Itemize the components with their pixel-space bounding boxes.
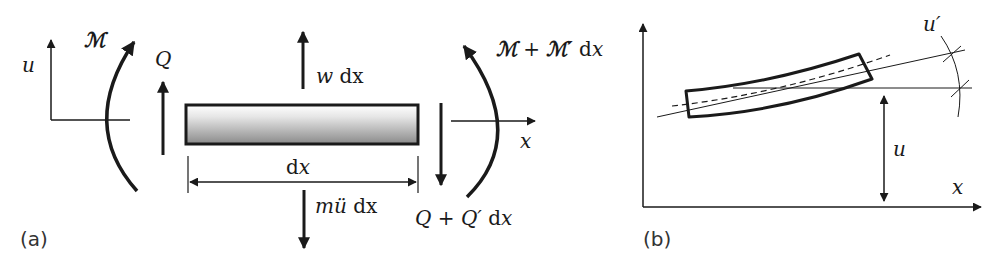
panel-a-label: (a): [20, 227, 48, 251]
moment-left-arrow-icon: [107, 42, 137, 191]
length-label: dx: [286, 155, 310, 179]
length-dimension: dx: [188, 155, 418, 193]
moment-left-label: ℳ: [84, 28, 109, 52]
deformed-beam: [686, 54, 872, 117]
shear-right-label: Q + Q′ dx: [415, 206, 512, 230]
u-axis-label: u: [22, 53, 35, 77]
beam-element: [186, 105, 418, 144]
panel-b-label: (b): [643, 227, 671, 251]
load-label: w dx: [316, 64, 364, 88]
inertia-label: mü dx: [315, 194, 378, 218]
shear-left-label: Q: [155, 47, 171, 71]
panel-b: x u′ u (b): [643, 12, 981, 251]
panel-a: u ℳ Q w dx dx mü dx Q + Q′ dx x ℳ +: [20, 28, 603, 251]
x-axis-label-b: x: [952, 175, 963, 199]
moment-right-label: ℳ + ℳ′ dx: [496, 37, 603, 61]
beam-element-diagram: u ℳ Q w dx dx mü dx Q + Q′ dx x ℳ +: [0, 0, 1006, 266]
slope-arc: [941, 36, 960, 117]
tangent-line: [657, 50, 965, 117]
x-axis-label-a: x: [520, 129, 531, 153]
displacement-label: u: [893, 137, 906, 161]
slope-label: u′: [923, 12, 941, 36]
